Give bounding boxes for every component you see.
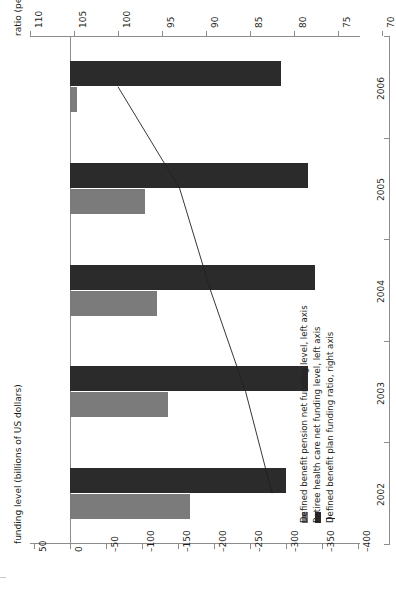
year-label: 2002 <box>376 483 386 506</box>
funding-tick <box>34 544 35 549</box>
legend-label: Retiree health care net funding level, l… <box>312 326 322 523</box>
funding-tick-label: –200 <box>218 530 228 552</box>
ratio-tick-label: 80 <box>298 17 308 28</box>
year-label: 2003 <box>376 382 386 405</box>
legend-label: Defined benefit pension net funding leve… <box>299 305 309 523</box>
ratio-tick-label: 95 <box>166 17 176 28</box>
funding-tick <box>70 544 71 549</box>
funding-tick <box>358 544 359 549</box>
funding-tick <box>214 544 215 549</box>
ratio-tick-label: 70 <box>386 17 396 28</box>
ratio-tick-label: 90 <box>210 17 220 28</box>
ratio-line-path <box>118 87 272 493</box>
funding-tick <box>106 544 107 549</box>
legend: Defined benefit pension net funding leve… <box>300 283 360 523</box>
ratio-tick-label: 75 <box>342 17 352 28</box>
funding-tick <box>286 544 287 549</box>
funding-tick <box>178 544 179 549</box>
funding-tick-label: 0 <box>74 546 84 552</box>
category-tick <box>384 544 390 545</box>
category-tick <box>384 138 390 139</box>
funding-axis-title: funding level (billions of US dollars) <box>14 384 23 544</box>
year-label: 2004 <box>376 280 386 303</box>
funding-tick-label: –50 <box>110 536 120 552</box>
funding-tick-label: –300 <box>290 530 300 552</box>
ratio-tick-label: 100 <box>122 11 132 28</box>
year-label: 2005 <box>376 178 386 201</box>
category-tick <box>384 442 390 443</box>
category-tick <box>384 239 390 240</box>
funding-tick-label: –150 <box>182 530 192 552</box>
funding-tick-label: –350 <box>326 530 336 552</box>
funding-tick-label: 50 <box>38 541 48 552</box>
funding-tick <box>322 544 323 549</box>
funding-tick-label: –400 <box>362 530 372 552</box>
ratio-tick-label: 105 <box>78 11 88 28</box>
year-label: 2006 <box>376 77 386 100</box>
funding-tick-label: –250 <box>254 530 264 552</box>
corner-mark <box>0 577 6 578</box>
ratio-axis-title: ratio (percent) <box>14 0 23 36</box>
funding-tick-label: –100 <box>146 530 156 552</box>
category-tick <box>384 36 390 37</box>
ratio-tick <box>382 31 383 36</box>
funding-tick <box>142 544 143 549</box>
category-tick <box>384 341 390 342</box>
legend-label: Defined benefit plan funding ratio, righ… <box>325 332 335 523</box>
ratio-tick-label: 85 <box>254 17 264 28</box>
ratio-tick-label: 110 <box>34 11 44 28</box>
funding-tick <box>250 544 251 549</box>
category-axis-line <box>389 36 390 544</box>
